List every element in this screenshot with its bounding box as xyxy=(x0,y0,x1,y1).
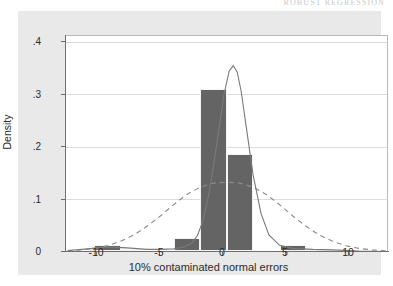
normal-density-curve xyxy=(68,182,386,251)
x-axis-line xyxy=(65,251,389,252)
y-tick-mark xyxy=(61,251,65,252)
x-tick-label: -10 xyxy=(88,246,103,258)
y-tick-mark xyxy=(61,146,65,147)
y-tick-label: .1 xyxy=(33,194,41,205)
y-tick-label: .3 xyxy=(33,89,41,100)
x-tick-label: -5 xyxy=(154,246,163,258)
plot-area xyxy=(65,35,388,251)
y-tick-label: 0 xyxy=(35,246,41,257)
running-head: ROBUST REGRESSION xyxy=(0,0,393,6)
y-tick-label: .4 xyxy=(33,36,41,47)
y-tick-labels: 0 .1 .2 .3 .4 xyxy=(18,0,41,286)
y-axis-title: Density xyxy=(1,114,13,149)
x-tick-label: 0 xyxy=(219,246,225,258)
density-curves xyxy=(65,36,388,252)
y-tick-mark xyxy=(61,94,65,95)
y-tick-mark xyxy=(61,41,65,42)
x-tick-label: 5 xyxy=(282,246,288,258)
y-tick-label: .2 xyxy=(33,141,41,152)
x-tick-label: 10 xyxy=(342,246,354,258)
y-axis-line xyxy=(65,35,66,252)
x-axis-title: 10% contaminated normal errors xyxy=(47,261,370,273)
kernel-density-curve xyxy=(68,66,386,252)
chart-figure xyxy=(18,11,381,275)
y-tick-mark xyxy=(61,199,65,200)
figure-page: ROBUST REGRESSION xyxy=(0,0,393,286)
